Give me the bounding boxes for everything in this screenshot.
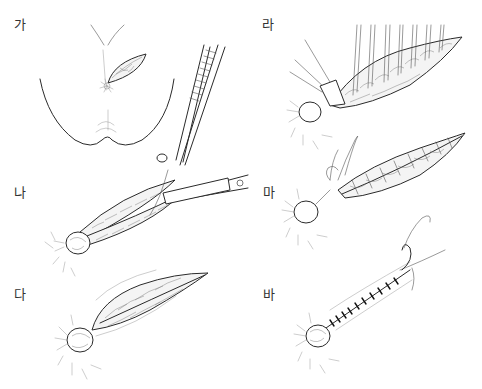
panel-ba-illustration: [294, 216, 445, 373]
forceps-illustration: [157, 45, 225, 165]
panel-ma-illustration: [282, 133, 465, 249]
surgical-illustration: [0, 0, 482, 389]
panel-da-illustration: [55, 270, 208, 379]
panel-na-illustration: [45, 170, 248, 276]
panel-ra-illustration: [287, 25, 462, 149]
panel-ga-illustration: [40, 25, 174, 145]
